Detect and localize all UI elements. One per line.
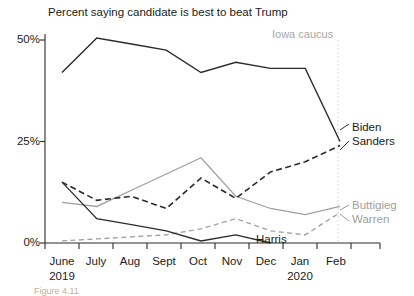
x-tick-marks <box>45 243 380 249</box>
series-line-biden <box>62 38 340 142</box>
series-label-buttigieg: Buttigieg <box>352 200 397 212</box>
series-line-sanders <box>62 146 340 209</box>
chart-title: Percent saying candidate is best to beat… <box>48 7 288 19</box>
x-axis-tick-sublabel-2019: 2019 <box>37 271 87 283</box>
biden-label-leader <box>340 124 349 130</box>
iowa-caucus-annotation: Iowa caucus <box>272 29 333 40</box>
y-axis-tick-label-0: 0% <box>4 237 40 249</box>
x-axis-tick-label-feb: Feb <box>311 256 361 268</box>
series-label-harris: Harris <box>256 234 287 246</box>
series-line-warren <box>62 213 340 241</box>
y-axis-tick-label-25: 25% <box>4 136 40 148</box>
series-label-warren: Warren <box>352 214 389 226</box>
x-axis-tick-sublabel-2020: 2020 <box>275 271 325 283</box>
y-axis-tick-label-50: 50% <box>4 34 40 46</box>
series-label-biden: Biden <box>352 122 381 134</box>
series-label-sanders: Sanders <box>352 136 395 148</box>
buttigieg-label-leader <box>340 205 349 210</box>
series-line-harris <box>62 182 271 243</box>
sanders-label-leader <box>340 141 349 150</box>
figure-caption: Figure 4.11 <box>34 287 79 296</box>
series-line-buttigieg <box>62 158 340 215</box>
warren-label-leader <box>340 214 349 221</box>
